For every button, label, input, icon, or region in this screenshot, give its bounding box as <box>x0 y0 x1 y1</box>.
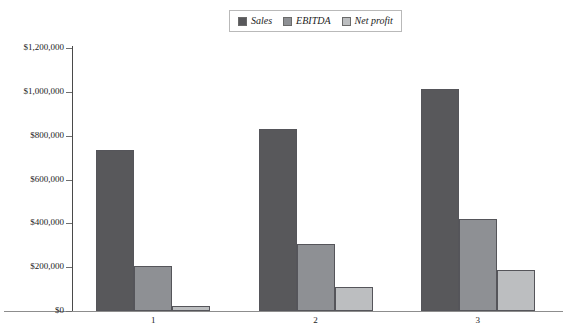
bar-ebitda-group-1[interactable] <box>134 266 172 311</box>
y-tick-label-wrap: $600,000 <box>0 175 64 185</box>
bar-sales-group-2[interactable] <box>259 129 297 311</box>
x-axis-label-1: 1 <box>133 316 173 325</box>
legend-swatch-ebitda <box>283 17 292 26</box>
y-tick-label: $0 <box>2 306 64 315</box>
x-axis-line <box>4 311 563 312</box>
plot-area <box>72 48 559 311</box>
legend-entry-sales: Sales <box>238 16 272 26</box>
bar-ebitda-group-3[interactable] <box>459 219 497 311</box>
bar-sales-group-1[interactable] <box>96 150 134 311</box>
bar-net-profit-group-3[interactable] <box>497 270 535 311</box>
y-tick-label: $1,200,000 <box>2 43 64 52</box>
y-tick-label-wrap: $800,000 <box>0 131 64 141</box>
legend-entry-net-profit: Net profit <box>342 16 393 26</box>
x-axis-label-3: 3 <box>458 316 498 325</box>
y-tick-label-wrap: $1,200,000 <box>0 43 64 53</box>
y-tick-label: $800,000 <box>2 131 64 140</box>
y-tick-label: $600,000 <box>2 175 64 184</box>
chart-legend: Sales EBITDA Net profit <box>229 10 402 32</box>
y-tick-label: $400,000 <box>2 218 64 227</box>
x-axis-label-2: 2 <box>296 316 336 325</box>
y-tick-mark <box>66 311 72 312</box>
legend-swatch-sales <box>238 17 247 26</box>
legend-label-ebitda: EBITDA <box>296 16 330 26</box>
bar-net-profit-group-2[interactable] <box>335 287 373 311</box>
y-tick-label: $1,000,000 <box>2 87 64 96</box>
y-tick-label-wrap: $1,000,000 <box>0 87 64 97</box>
y-tick-label-wrap: $0 <box>0 306 64 316</box>
bar-net-profit-group-1[interactable] <box>172 306 210 311</box>
bar-ebitda-group-2[interactable] <box>297 244 335 311</box>
bar-chart: Sales EBITDA Net profit $0$200,000$400,0… <box>0 0 568 331</box>
bar-sales-group-3[interactable] <box>421 89 459 311</box>
y-tick-label-wrap: $400,000 <box>0 218 64 228</box>
y-tick-label: $200,000 <box>2 262 64 271</box>
legend-label-net-profit: Net profit <box>355 16 393 26</box>
y-tick-label-wrap: $200,000 <box>0 262 64 272</box>
legend-label-sales: Sales <box>251 16 272 26</box>
legend-entry-ebitda: EBITDA <box>283 16 330 26</box>
legend-swatch-net-profit <box>342 17 351 26</box>
